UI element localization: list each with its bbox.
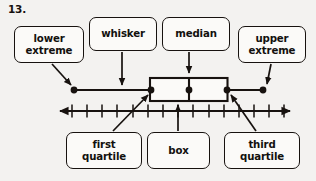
callout-third-quartile-line1: third: [240, 139, 284, 151]
upper-extreme-dot: [260, 87, 267, 94]
callout-upper-extreme-line2: extreme: [249, 45, 296, 57]
callout-first-quartile[interactable]: first quartile: [66, 132, 142, 169]
callout-upper-extreme-line1: upper: [249, 33, 296, 45]
lower-extreme-dot: [71, 87, 78, 94]
callout-box-line1: box: [168, 145, 188, 157]
callout-lower-extreme-line2: extreme: [26, 45, 73, 57]
callout-lower-extreme-line1: lower: [26, 33, 73, 45]
callout-whisker-line1: whisker: [101, 28, 145, 40]
first-quartile-dot: [148, 87, 155, 94]
callout-upper-extreme[interactable]: upper extreme: [238, 26, 306, 63]
callout-median-line1: median: [175, 28, 217, 40]
upper-extreme-arrow: [267, 64, 271, 84]
third-quartile-arrow: [231, 95, 256, 131]
lower-extreme-arrow: [52, 64, 71, 85]
median-dot: [186, 87, 193, 94]
callout-third-quartile-line2: quartile: [240, 151, 284, 163]
callout-first-quartile-line2: quartile: [82, 151, 126, 163]
callout-first-quartile-line1: first: [82, 139, 126, 151]
callout-whisker[interactable]: whisker: [89, 17, 157, 51]
figure-canvas: 13.: [0, 0, 316, 181]
first-quartile-arrow: [113, 95, 148, 131]
number-line-axis: [60, 105, 290, 118]
callout-median[interactable]: median: [162, 17, 230, 51]
callout-third-quartile[interactable]: third quartile: [224, 132, 300, 169]
third-quartile-dot: [224, 87, 231, 94]
callout-lower-extreme[interactable]: lower extreme: [14, 26, 84, 63]
callout-box[interactable]: box: [147, 132, 210, 169]
